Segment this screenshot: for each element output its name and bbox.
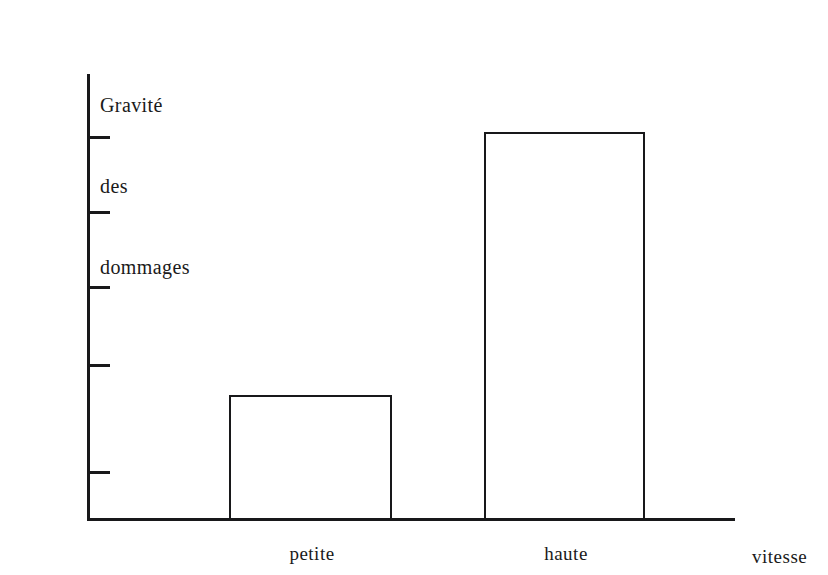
bar-chart-figure: Gravité des dommages petite haute vitess… bbox=[40, 16, 828, 575]
x-axis-title: vitesse bbox=[752, 543, 807, 570]
y-axis-line bbox=[87, 74, 90, 521]
y-axis-title-line-3: dommages bbox=[100, 254, 190, 281]
y-axis-tick-5 bbox=[90, 471, 110, 474]
y-axis-title-line-2: des bbox=[100, 173, 190, 200]
x-axis-category-label-petite: petite bbox=[289, 543, 334, 565]
y-axis-title: Gravité des dommages bbox=[100, 38, 190, 335]
bar-haute bbox=[484, 132, 645, 520]
x-axis-category-label-haute: haute bbox=[544, 543, 588, 565]
y-axis-tick-4 bbox=[90, 364, 110, 367]
y-axis-title-line-1: Gravité bbox=[100, 92, 190, 119]
bar-petite bbox=[229, 395, 392, 520]
